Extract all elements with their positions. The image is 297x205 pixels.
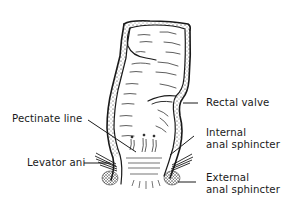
label-external-sphincter-2: anal sphincter xyxy=(206,184,280,196)
label-pectinate-line: Pectinate line xyxy=(12,113,82,125)
label-levator-ani: Levator ani xyxy=(27,157,85,169)
label-external-sphincter-1: External xyxy=(206,172,249,184)
label-rectal-valve: Rectal valve xyxy=(206,97,269,109)
anal-canal xyxy=(126,158,162,189)
label-internal-sphincter-1: Internal xyxy=(206,127,246,139)
anal-columns xyxy=(130,134,156,152)
label-internal-sphincter-2: anal sphincter xyxy=(206,139,280,151)
external-sphincter-right xyxy=(164,171,180,185)
rectum-anatomy-diagram: Rectal valve Pectinate line Internal ana… xyxy=(0,0,297,205)
external-sphincter-left xyxy=(102,171,118,185)
